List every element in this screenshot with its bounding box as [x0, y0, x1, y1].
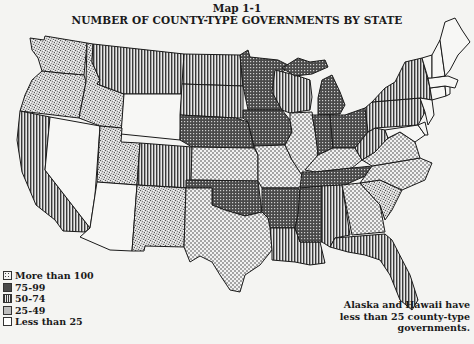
legend-item-75-99: 75-99	[3, 282, 94, 294]
swatch-dark-crosshatch-icon	[3, 283, 12, 292]
swatch-light-dots-icon	[3, 271, 12, 280]
legend: More than 100 75-99 50-74 25-49 Less tha…	[3, 270, 94, 328]
state-NM	[132, 185, 186, 251]
state-WY	[121, 94, 182, 140]
state-MI	[318, 75, 345, 115]
state-NE	[180, 115, 254, 148]
legend-item-less-than-25: Less than 25	[3, 316, 94, 328]
swatch-stipple-icon	[3, 306, 12, 315]
state-NY	[372, 58, 432, 102]
state-CO	[137, 143, 192, 188]
swatch-vertical-lines-icon	[3, 294, 12, 303]
legend-item-25-49: 25-49	[3, 305, 94, 317]
state-RI	[445, 86, 450, 96]
state-ME	[440, 18, 470, 76]
state-OR	[20, 71, 86, 118]
legend-item-more-than-100: More than 100	[3, 270, 94, 282]
state-MT	[92, 44, 184, 94]
legend-item-50-74: 50-74	[3, 293, 94, 305]
state-WA	[30, 36, 87, 75]
state-MS	[295, 186, 322, 242]
state-ND	[182, 54, 243, 86]
alaska-hawaii-note: Alaska and Hawaii have less than 25 coun…	[330, 299, 470, 334]
swatch-blank-icon	[3, 317, 12, 326]
state-KS	[191, 147, 258, 181]
state-SD	[180, 84, 243, 118]
